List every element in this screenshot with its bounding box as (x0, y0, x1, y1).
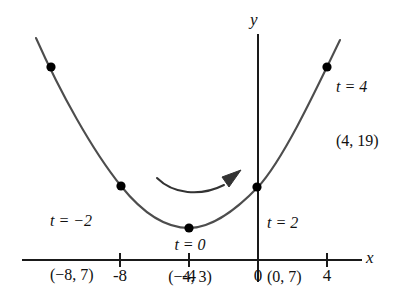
label-point-t-2: t = 2 (0, 7) (267, 178, 302, 296)
label-point-t-0-coords-wrap: (−4, 3) (142, 232, 238, 296)
y-axis-label: y (250, 10, 258, 29)
label-t-minus-2-t: t = −2 (50, 212, 94, 230)
orientation-arrow-arc (157, 178, 224, 192)
label-point-t-minus-2: t = −2 (−8, 7) (50, 176, 94, 296)
label-t-4-t: t = 4 (336, 78, 379, 96)
label-t-minus-2-coords: (−8, 7) (50, 266, 94, 284)
x-tick-label-0: 0 (248, 266, 268, 285)
label-t-2-t: t = 2 (267, 214, 302, 232)
x-axis-label: x (366, 248, 374, 267)
x-tick-label--8: -8 (106, 266, 134, 285)
label-t-4-coords: (4, 19) (336, 132, 379, 150)
x-tick-label-4: 4 (317, 266, 337, 285)
data-point-t-4 (322, 62, 331, 71)
parametric-curve-figure: y x -8 -4 0 4 t = −2 (−8, 7) t = 0 (−4, … (0, 0, 396, 296)
label-t-0-coords: (−4, 3) (142, 268, 238, 286)
data-point-t-2 (252, 182, 261, 191)
data-point-unlabeled (46, 62, 55, 71)
label-t-2-coords: (0, 7) (267, 268, 302, 286)
orientation-arrowhead-icon (222, 170, 241, 187)
label-point-t-4: t = 4 (4, 19) (336, 42, 379, 185)
data-point-t-minus-2 (116, 181, 125, 190)
